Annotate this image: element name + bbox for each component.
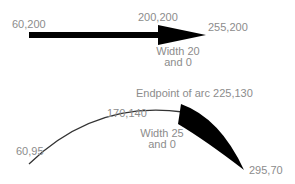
- arrow-diagram: 60,200 200,200 255,200 Width 20 and 0 60…: [0, 0, 295, 184]
- straight-width-label-2: and 0: [164, 56, 192, 68]
- straight-arrow-shaft: [29, 32, 162, 38]
- straight-start-label: 60,200: [12, 18, 46, 30]
- arc-start-label: 60,95: [16, 145, 44, 157]
- straight-end-label: 255,200: [208, 21, 248, 33]
- arc-arrow-head: [178, 104, 244, 170]
- arc-endpoint-label: Endpoint of arc 225,130: [136, 87, 253, 99]
- straight-arrow: [29, 25, 206, 45]
- arc-mid-label: 170,140: [107, 107, 147, 119]
- arc-width-label-2: and 0: [148, 138, 176, 150]
- arc-end-label: 295,70: [249, 164, 283, 176]
- straight-arrow-head: [158, 25, 206, 45]
- straight-mid-label: 200,200: [138, 11, 178, 23]
